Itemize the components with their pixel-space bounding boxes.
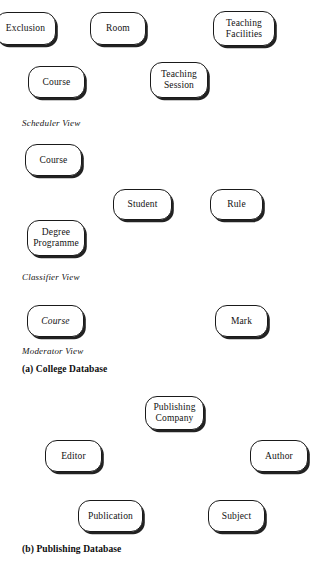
entity-label: Course xyxy=(39,316,71,327)
entity-teaching-session: Teaching Session xyxy=(150,62,208,98)
entity-degree-programme: Degree Programme xyxy=(27,220,85,256)
entity-rule: Rule xyxy=(210,189,263,220)
entity-course-classifier: Course xyxy=(25,144,82,176)
entity-label: Course xyxy=(38,155,70,166)
view-caption-moderator: Moderator View xyxy=(22,346,83,356)
entity-label: Author xyxy=(263,451,295,462)
entity-student: Student xyxy=(113,189,172,220)
entity-editor: Editor xyxy=(45,440,102,472)
figure-canvas: Exclusion Room Teaching Facilities Cours… xyxy=(0,0,313,562)
figure-caption-college: (a) College Database xyxy=(22,364,107,374)
entity-exclusion: Exclusion xyxy=(0,12,56,45)
entity-label: Student xyxy=(125,199,159,210)
entity-room: Room xyxy=(90,12,146,45)
entity-teaching-facilities: Teaching Facilities xyxy=(213,11,275,46)
entity-label: Degree Programme xyxy=(31,227,81,248)
entity-label: Mark xyxy=(229,316,254,327)
entity-label: Exclusion xyxy=(4,23,47,34)
figure-caption-publishing: (b) Publishing Database xyxy=(22,544,121,554)
view-caption-classifier: Classifier View xyxy=(22,272,80,282)
entity-label: Publication xyxy=(86,511,135,522)
entity-subject: Subject xyxy=(208,500,265,532)
entity-course-scheduler: Course xyxy=(28,66,85,98)
entity-label: Subject xyxy=(220,511,254,522)
entity-label: Publishing Company xyxy=(151,402,197,423)
entity-label: Teaching Facilities xyxy=(224,18,264,39)
entity-label: Rule xyxy=(225,199,248,210)
entity-course-moderator: Course xyxy=(27,305,84,337)
entity-label: Teaching Session xyxy=(159,69,199,90)
entity-mark: Mark xyxy=(215,305,268,337)
view-caption-scheduler: Scheduler View xyxy=(22,118,80,128)
entity-label: Room xyxy=(104,23,132,34)
entity-label: Course xyxy=(41,77,73,88)
entity-label: Editor xyxy=(59,451,88,462)
entity-publication: Publication xyxy=(78,500,143,532)
entity-author: Author xyxy=(250,440,308,472)
entity-publishing-company: Publishing Company xyxy=(145,396,204,430)
